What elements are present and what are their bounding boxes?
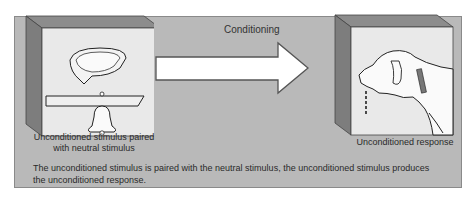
left-caption-line2: with neutral stimulus bbox=[14, 143, 174, 154]
diagram-title: Conditioning bbox=[224, 24, 280, 35]
left-caption: Unconditioned stimulus paired with neutr… bbox=[14, 132, 174, 154]
salivating-dog-icon bbox=[333, 13, 468, 138]
stimulus-box bbox=[14, 14, 154, 139]
left-caption-line1: Unconditioned stimulus paired bbox=[14, 132, 174, 143]
diagram-description: The unconditioned stimulus is paired wit… bbox=[33, 162, 433, 186]
response-box bbox=[333, 13, 468, 138]
bell-icon bbox=[14, 14, 154, 139]
right-caption: Unconditioned response bbox=[350, 137, 460, 148]
right-arrow-icon bbox=[150, 40, 330, 100]
